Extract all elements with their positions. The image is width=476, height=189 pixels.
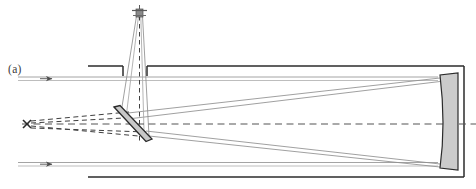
primary-mirror: [440, 73, 458, 170]
incoming-ray-upper: [18, 77, 438, 81]
panel-label: (a): [8, 63, 22, 76]
incoming-ray-lower: [18, 163, 438, 167]
optical-diagram-figure: (a): [0, 0, 476, 189]
converging-beam: [128, 78, 440, 167]
optics-ray-diagram-canvas: (a): [0, 0, 476, 189]
detector: [132, 5, 147, 17]
